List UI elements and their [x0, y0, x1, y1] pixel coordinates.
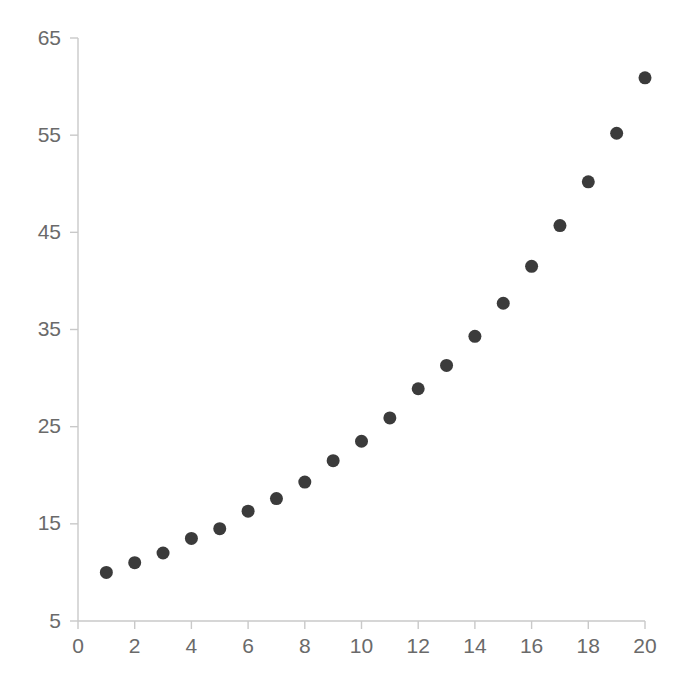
data-point	[553, 219, 566, 232]
data-point	[440, 359, 453, 372]
x-axis-tick-label: 20	[633, 634, 656, 657]
data-point	[270, 492, 283, 505]
data-point	[242, 505, 255, 518]
data-point	[128, 556, 141, 569]
y-axis: 5152535455565	[38, 26, 78, 632]
x-axis-tick-label: 18	[577, 634, 600, 657]
x-axis-tick-label: 12	[407, 634, 430, 657]
plot-canvas: 5152535455565 02468101214161820	[0, 0, 684, 685]
scatter-chart-figure: 5152535455565 02468101214161820	[0, 0, 684, 685]
y-axis-tick-label: 5	[49, 609, 61, 632]
x-axis-tick-label: 14	[463, 634, 487, 657]
data-point	[610, 127, 623, 140]
y-axis-tick-label: 25	[38, 414, 61, 437]
data-points-layer	[100, 71, 652, 579]
data-point	[185, 532, 198, 545]
x-axis: 02468101214161820	[72, 621, 657, 657]
data-point	[639, 71, 652, 84]
data-point	[157, 546, 170, 559]
data-point	[327, 454, 340, 467]
data-point	[100, 566, 113, 579]
y-axis-tick-label: 55	[38, 123, 61, 146]
y-axis-tick-label: 45	[38, 220, 61, 243]
x-axis-tick-label: 16	[520, 634, 543, 657]
data-point	[383, 411, 396, 424]
x-axis-tick-label: 4	[186, 634, 198, 657]
x-axis-tick-label: 8	[299, 634, 311, 657]
data-point	[525, 260, 538, 273]
data-point	[468, 330, 481, 343]
data-point	[582, 175, 595, 188]
data-point	[355, 435, 368, 448]
data-point	[412, 382, 425, 395]
x-axis-tick-label: 2	[129, 634, 141, 657]
x-axis-tick-label: 0	[72, 634, 84, 657]
y-axis-tick-label: 35	[38, 317, 61, 340]
x-axis-tick-label: 6	[242, 634, 254, 657]
y-axis-tick-label: 65	[38, 26, 61, 49]
data-point	[497, 297, 510, 310]
y-axis-tick-label: 15	[38, 511, 61, 534]
data-point	[213, 522, 226, 535]
data-point	[298, 476, 311, 489]
x-axis-tick-label: 10	[350, 634, 373, 657]
